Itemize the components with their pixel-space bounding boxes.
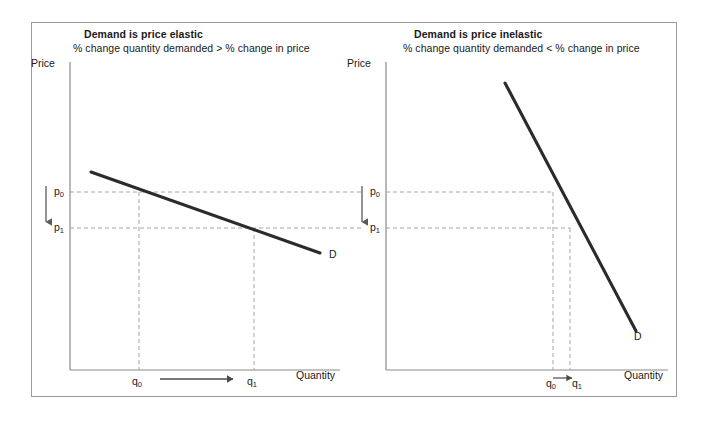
inelastic-panel-subtitle: % change quantity demanded < % change in… xyxy=(403,42,640,54)
inelastic-demand-curve-label: D xyxy=(634,330,642,342)
inelastic-p1-label: p1 xyxy=(370,221,380,233)
figure-root: Demand is price elastic % change quantit… xyxy=(0,0,707,421)
elastic-q0-label: q0 xyxy=(132,375,142,387)
inelastic-x-axis-label: Quantity xyxy=(624,369,663,381)
elastic-x-axis-label: Quantity xyxy=(296,369,335,381)
elastic-demand-curve-label: D xyxy=(329,248,337,260)
elastic-y-axis-label: Price xyxy=(31,57,55,69)
inelastic-q1-label: q1 xyxy=(572,377,582,389)
elastic-demand-curve xyxy=(91,172,320,253)
panel-elastic-guidelines xyxy=(70,192,363,370)
panel-elastic-axes xyxy=(70,62,340,370)
inelastic-demand-curve xyxy=(505,83,636,331)
inelastic-q0-label: q0 xyxy=(546,377,556,389)
elastic-panel-subtitle: % change quantity demanded > % change in… xyxy=(73,42,310,54)
inelastic-panel-title: Demand is price inelastic xyxy=(414,28,543,40)
elastic-panel-title: Demand is price elastic xyxy=(84,28,203,40)
elastic-p0-label: p0 xyxy=(54,185,64,197)
panel-inelastic-axes xyxy=(386,62,668,370)
inelastic-y-axis-label: Price xyxy=(347,57,371,69)
inelastic-p0-label: p0 xyxy=(370,185,380,197)
elastic-q1-label: q1 xyxy=(247,375,257,387)
elastic-p1-label: p1 xyxy=(54,221,64,233)
panel-inelastic-guidelines xyxy=(386,192,570,370)
